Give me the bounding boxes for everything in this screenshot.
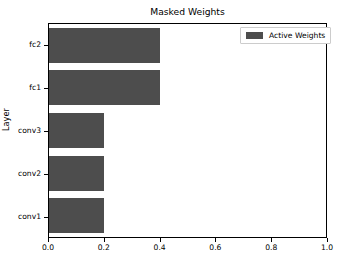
y-tick-mark [44,131,48,132]
figure-canvas: Masked Weights Layer fc2fc1conv3conv2con… [0,0,342,265]
bar-fc2 [49,28,160,63]
chart-title: Masked Weights [48,6,327,17]
y-tick-mark [44,45,48,46]
bar-fc1 [49,70,160,105]
bar-conv3 [49,113,104,148]
y-tick-mark [44,217,48,218]
bar-row [49,109,326,152]
bar-row [49,194,326,237]
bar-conv2 [49,156,104,191]
x-tick-mark [104,238,105,242]
bars-layer [49,24,326,237]
plot-area [48,23,327,238]
y-axis-label: Layer [2,108,11,131]
bar-row [49,67,326,110]
legend: Active Weights [240,27,331,44]
y-tick-mark [44,88,48,89]
x-tick-mark [160,238,161,242]
x-tick-mark [215,238,216,242]
x-tick-mark [48,238,49,242]
x-tick-mark [327,238,328,242]
x-tick-mark [271,238,272,242]
bar-conv1 [49,198,104,233]
legend-swatch-active-weights [246,32,263,39]
bar-row [49,152,326,195]
y-tick-mark [44,174,48,175]
legend-label-active-weights: Active Weights [269,31,325,40]
